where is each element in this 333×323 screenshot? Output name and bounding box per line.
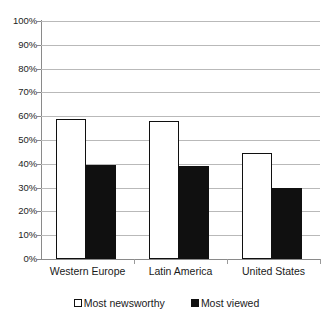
legend-label: Most newsworthy bbox=[84, 297, 165, 309]
y-axis-tick-label: 40% bbox=[1, 159, 37, 169]
bar-most-viewed bbox=[86, 165, 116, 259]
y-axis-tick bbox=[37, 164, 41, 165]
gridline bbox=[41, 69, 320, 70]
y-axis-labels: 100%90%80%70%60%50%40%30%20%10%0% bbox=[0, 21, 37, 259]
y-axis-tick bbox=[37, 21, 41, 22]
plot-area bbox=[41, 21, 320, 259]
bar-most-viewed bbox=[179, 166, 209, 259]
legend-item: Most newsworthy bbox=[74, 297, 165, 309]
gridline bbox=[41, 92, 320, 93]
y-axis-tick bbox=[37, 235, 41, 236]
x-axis-category-label: Latin America bbox=[134, 265, 227, 278]
y-axis-tick bbox=[37, 45, 41, 46]
bar-most-newsworthy bbox=[242, 153, 272, 259]
y-axis-tick-label: 10% bbox=[1, 230, 37, 240]
y-axis-tick-label: 60% bbox=[1, 111, 37, 121]
x-axis-category-label: United States bbox=[227, 265, 320, 278]
axis-baseline bbox=[41, 259, 320, 260]
bar-most-viewed bbox=[272, 188, 302, 259]
y-axis-tick-label: 100% bbox=[1, 16, 37, 26]
y-axis-tick bbox=[37, 188, 41, 189]
gridline bbox=[41, 116, 320, 117]
gridline bbox=[41, 45, 320, 46]
legend-label: Most viewed bbox=[201, 297, 259, 309]
y-axis-tick bbox=[37, 259, 41, 260]
y-axis-tick bbox=[37, 140, 41, 141]
y-axis-tick bbox=[37, 211, 41, 212]
y-axis-tick-label: 30% bbox=[1, 183, 37, 193]
bar-chart: 100%90%80%70%60%50%40%30%20%10%0% Wester… bbox=[0, 0, 333, 323]
y-axis-tick bbox=[37, 69, 41, 70]
gridline bbox=[41, 21, 320, 22]
bar-most-newsworthy bbox=[56, 119, 86, 259]
bar-most-newsworthy bbox=[149, 121, 179, 259]
y-axis-tick-label: 70% bbox=[1, 87, 37, 97]
y-axis-tick-label: 90% bbox=[1, 40, 37, 50]
y-axis-tick-label: 80% bbox=[1, 64, 37, 74]
x-axis-separator bbox=[134, 259, 135, 264]
x-axis-category-label: Western Europe bbox=[41, 265, 134, 278]
y-axis-tick bbox=[37, 92, 41, 93]
legend-swatch-most-newsworthy bbox=[74, 299, 82, 307]
y-axis-tick-label: 0% bbox=[1, 254, 37, 264]
y-axis-tick bbox=[37, 116, 41, 117]
y-axis-tick-label: 20% bbox=[1, 206, 37, 216]
y-axis-tick-label: 50% bbox=[1, 135, 37, 145]
legend-item: Most viewed bbox=[191, 297, 259, 309]
chart-legend: Most newsworthyMost viewed bbox=[0, 297, 333, 309]
x-axis-separator bbox=[320, 259, 321, 264]
x-axis-separator bbox=[227, 259, 228, 264]
legend-swatch-most-viewed bbox=[191, 299, 199, 307]
